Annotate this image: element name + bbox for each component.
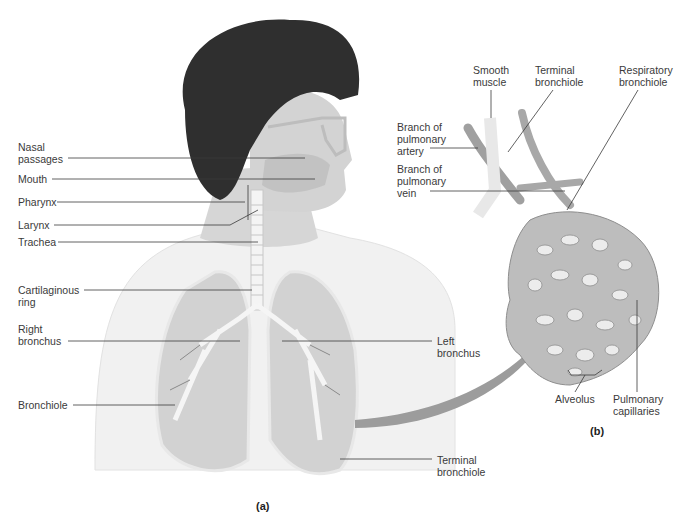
label-respiratory-bronchiole: Respiratory bronchiole xyxy=(619,64,673,88)
panel-label-a: (a) xyxy=(256,500,269,512)
label-pharynx: Pharynx xyxy=(18,196,57,208)
label-branch-pulmonary-vein: Branch of pulmonary vein xyxy=(397,163,446,199)
label-bronchiole: Bronchiole xyxy=(18,399,68,411)
label-terminal-bronchiole-a: Terminal bronchiole xyxy=(437,454,485,478)
label-mouth: Mouth xyxy=(18,173,47,185)
label-right-bronchus: Right bronchus xyxy=(18,323,61,347)
label-terminal-bronchiole-b: Terminal bronchiole xyxy=(535,64,583,88)
label-cartilaginous-ring: Cartilaginous ring xyxy=(18,284,79,308)
respiratory-system-illustration xyxy=(0,0,689,523)
label-larynx: Larynx xyxy=(18,219,50,231)
label-smooth-muscle: Smooth muscle xyxy=(473,64,509,88)
trachea-tube xyxy=(251,190,263,310)
label-nasal-passages: Nasal passages xyxy=(18,141,63,165)
label-left-bronchus: Left bronchus xyxy=(437,335,480,359)
terminal-bronchiole-tube xyxy=(478,118,495,215)
label-branch-pulmonary-artery: Branch of pulmonary artery xyxy=(397,121,446,157)
panel-label-b: (b) xyxy=(590,425,604,437)
label-trachea: Trachea xyxy=(18,236,56,248)
nasal-cavity xyxy=(262,154,330,193)
label-alveolus: Alveolus xyxy=(555,393,595,405)
label-pulmonary-capillaries: Pulmonary capillaries xyxy=(613,393,663,417)
